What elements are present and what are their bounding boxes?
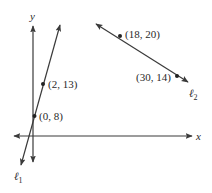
point-label-l1-b: (0, 8) [39,110,63,123]
point-label-l2-b: (30, 14) [136,71,171,84]
point-l1-b [33,114,37,118]
coordinate-diagram: x y (2, 13) (0, 8) ℓ1 (18, 20) (30, 14) … [0,0,212,193]
x-axis-label: x [195,130,201,142]
line-label-l2: ℓ2 [189,87,198,102]
point-l2-b [175,74,179,78]
point-l2-a [118,34,122,38]
y-axis-label: y [29,10,35,22]
line-label-l1: ℓ1 [14,170,23,185]
point-label-l1-a: (2, 13) [48,78,78,91]
point-label-l2-a: (18, 20) [125,28,160,41]
point-l1-a [41,82,45,86]
line-l1 [21,25,60,165]
